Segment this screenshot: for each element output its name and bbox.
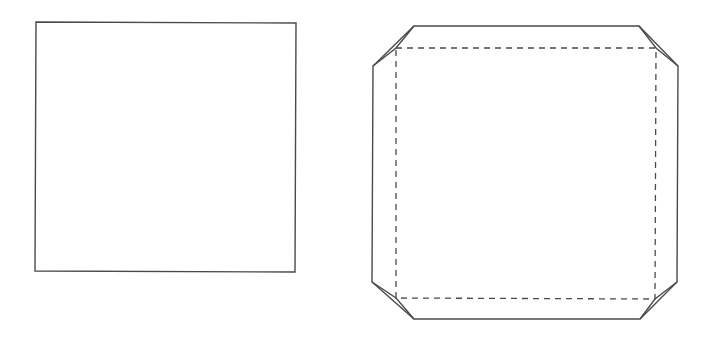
dashed-fold-square	[396, 48, 656, 299]
plain-square	[35, 22, 296, 272]
octagon-net-outline	[372, 26, 678, 319]
diagram-canvas	[0, 0, 712, 355]
